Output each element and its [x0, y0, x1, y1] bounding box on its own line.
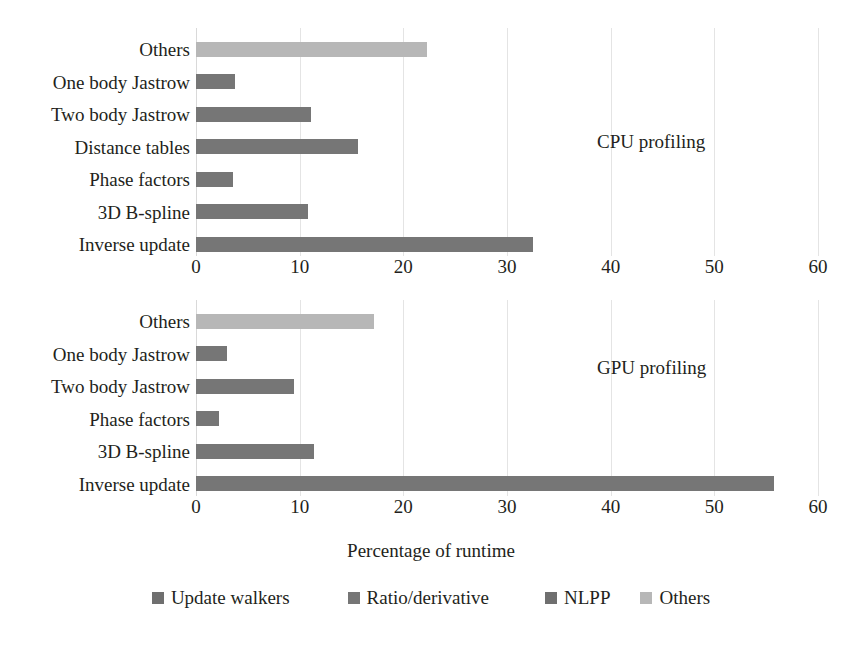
legend-swatch-icon: [640, 592, 652, 604]
legend-label: Ratio/derivative: [367, 588, 489, 607]
category-label: One body Jastrow: [4, 73, 190, 92]
x-tick-label: 30: [498, 256, 517, 278]
legend-label: Update walkers: [171, 588, 290, 607]
gridline-20: [403, 28, 404, 256]
x-tick-label: 60: [809, 256, 828, 278]
gridline-60: [818, 28, 819, 256]
category-label: 3D B-spline: [4, 442, 190, 461]
gridline-30: [507, 28, 508, 256]
bar[interactable]: [196, 476, 774, 491]
cpu-plot-area: [196, 28, 818, 256]
category-label: Others: [4, 40, 190, 59]
bar[interactable]: [196, 411, 219, 426]
profiling-figure: Inverse update3D B-splinePhase factorsDi…: [0, 0, 862, 645]
legend-item[interactable]: Ratio/derivative: [348, 588, 489, 607]
category-label: Others: [4, 312, 190, 331]
x-tick-label: 50: [705, 256, 724, 278]
legend-item[interactable]: Update walkers: [152, 588, 290, 607]
gpu-x-axis: 0102030405060: [196, 496, 818, 522]
x-tick-label: 0: [191, 256, 201, 278]
bar[interactable]: [196, 379, 294, 394]
category-label: Two body Jastrow: [4, 105, 190, 124]
legend-label: NLPP: [564, 588, 610, 607]
chart-legend: Update walkersRatio/derivativeNLPPOthers: [0, 588, 862, 607]
category-label: Distance tables: [4, 138, 190, 157]
x-axis-title: Percentage of runtime: [0, 541, 862, 560]
category-label: Inverse update: [4, 475, 190, 494]
x-tick-label: 30: [498, 496, 517, 518]
bar[interactable]: [196, 107, 311, 122]
bar[interactable]: [196, 172, 233, 187]
x-tick-label: 20: [394, 496, 413, 518]
legend-label: Others: [659, 588, 710, 607]
category-label: One body Jastrow: [4, 345, 190, 364]
legend-swatch-icon: [152, 592, 164, 604]
category-label: 3D B-spline: [4, 203, 190, 222]
x-tick-label: 50: [705, 496, 724, 518]
bar[interactable]: [196, 314, 374, 329]
gpu-panel-note: GPU profiling: [597, 358, 706, 377]
bar[interactable]: [196, 74, 235, 89]
bar[interactable]: [196, 204, 308, 219]
legend-item[interactable]: NLPP: [545, 588, 610, 607]
bar[interactable]: [196, 42, 427, 57]
chart-panel-gpu: Inverse update3D B-splinePhase factorsTw…: [0, 300, 862, 496]
gridline-30: [507, 300, 508, 496]
x-tick-label: 0: [191, 496, 201, 518]
x-tick-label: 40: [601, 256, 620, 278]
legend-item[interactable]: Others: [640, 588, 710, 607]
x-tick-label: 40: [601, 496, 620, 518]
category-label: Two body Jastrow: [4, 377, 190, 396]
gridline-50: [714, 300, 715, 496]
legend-swatch-icon: [348, 592, 360, 604]
x-tick-label: 10: [290, 256, 309, 278]
category-label: Phase factors: [4, 410, 190, 429]
category-label: Phase factors: [4, 170, 190, 189]
x-tick-label: 60: [809, 496, 828, 518]
gridline-60: [818, 300, 819, 496]
bar[interactable]: [196, 346, 227, 361]
bar[interactable]: [196, 444, 314, 459]
gridline-0: [196, 300, 197, 496]
category-label: Inverse update: [4, 235, 190, 254]
legend-swatch-icon: [545, 592, 557, 604]
gridline-50: [714, 28, 715, 256]
chart-panel-cpu: Inverse update3D B-splinePhase factorsDi…: [0, 28, 862, 256]
cpu-panel-note: CPU profiling: [597, 132, 705, 151]
x-tick-label: 10: [290, 496, 309, 518]
gpu-plot-area: [196, 300, 818, 496]
x-tick-label: 20: [394, 256, 413, 278]
bar[interactable]: [196, 139, 358, 154]
gridline-10: [300, 300, 301, 496]
cpu-x-axis: 0102030405060: [196, 256, 818, 282]
gridline-40: [611, 300, 612, 496]
bar[interactable]: [196, 237, 533, 252]
gridline-20: [403, 300, 404, 496]
